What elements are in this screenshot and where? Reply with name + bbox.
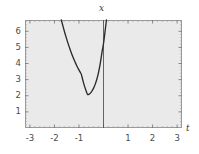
y-tick-label: 3 <box>9 75 21 84</box>
x-tick-label: 2 <box>145 134 161 143</box>
x-axis-label: t <box>186 124 190 133</box>
y-axis-label: x <box>99 4 104 13</box>
x-tick-label: 1 <box>120 134 136 143</box>
plot-figure: x t 123456 -3-2-1123 <box>0 0 199 154</box>
y-tick-label: 1 <box>9 107 21 116</box>
x-tick-label: 3 <box>169 134 185 143</box>
x-tick-label: -3 <box>22 134 38 143</box>
x-tick-label: -1 <box>71 134 87 143</box>
x-tick-label: -2 <box>46 134 62 143</box>
y-tick-label: 6 <box>9 27 21 36</box>
y-tick-label: 5 <box>9 43 21 52</box>
y-tick-label: 4 <box>9 59 21 68</box>
y-tick-label: 2 <box>9 91 21 100</box>
plot-panel <box>25 20 182 128</box>
